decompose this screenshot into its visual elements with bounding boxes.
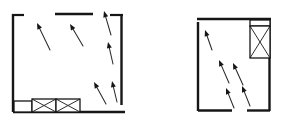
- floor-plan-figure: [0, 0, 285, 135]
- unit-small-plenum-box: [14, 101, 32, 112]
- figure-root: Two room airflow floor plan sketches Lef…: [0, 0, 285, 135]
- right-plan-units: [250, 20, 270, 58]
- unit-duct-strip: [250, 20, 270, 26]
- figure-background: [0, 0, 285, 135]
- left-plan-units: [14, 99, 80, 112]
